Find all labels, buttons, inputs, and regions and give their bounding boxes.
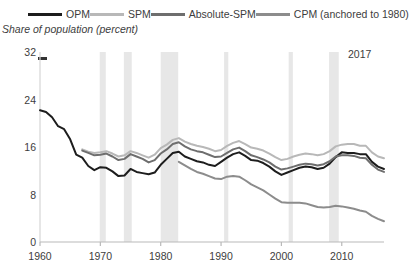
series-line-cpm-anchored-to-1980 — [179, 162, 384, 221]
recession-band-1 — [124, 52, 132, 242]
recession-band-4 — [289, 52, 293, 242]
recession-band-0 — [100, 52, 106, 242]
